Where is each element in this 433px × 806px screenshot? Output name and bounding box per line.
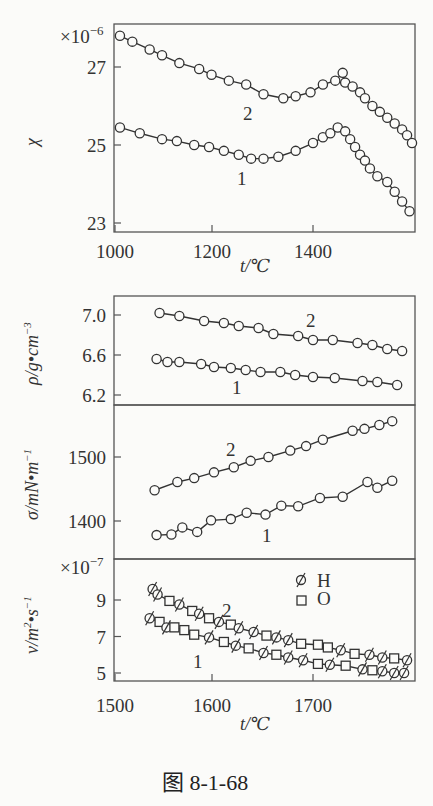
y-tick-label: 23 — [87, 213, 106, 234]
nu-axis-ticks: 579150016001700 — [96, 590, 332, 716]
data-point-circle — [274, 152, 283, 161]
data-point-circle — [308, 138, 317, 147]
data-point-circle — [175, 59, 184, 68]
legend-slashed-circle-icon — [297, 573, 306, 587]
nu-curve-label-2: 2 — [222, 600, 232, 621]
data-point-circle — [206, 516, 215, 525]
figure-caption: 图 8-1-68 — [162, 770, 248, 795]
chi-curve-label-1: 1 — [237, 168, 247, 189]
data-point-square — [262, 631, 271, 640]
nu-y-label: ν/m2•s−1 — [21, 596, 42, 654]
legend-square-icon — [297, 596, 306, 605]
nu-series — [145, 582, 412, 680]
data-point-circle — [242, 80, 251, 89]
data-point-square — [390, 654, 399, 663]
rho-axis-ticks: 6.26.67.0 — [82, 305, 121, 406]
data-point-circle — [360, 424, 369, 433]
data-point-circle — [241, 365, 250, 374]
data-point-circle — [363, 477, 372, 486]
data-point-square — [297, 639, 306, 648]
data-point-circle — [247, 154, 256, 163]
data-point-circle — [398, 197, 407, 206]
data-point-circle — [291, 370, 300, 379]
data-point-circle — [135, 129, 144, 138]
data-point-circle — [368, 340, 377, 349]
sigma-curve-label-1: 1 — [262, 525, 272, 546]
data-point-circle — [234, 150, 243, 159]
y-tick-label: 7 — [97, 627, 107, 648]
data-point-circle — [373, 483, 382, 492]
data-point-circle — [178, 523, 187, 532]
chi-series — [115, 31, 416, 216]
data-point-circle — [259, 154, 268, 163]
data-point-circle — [172, 137, 181, 146]
data-point-square — [313, 640, 322, 649]
x-tick-label: 1200 — [193, 241, 231, 262]
data-point-circle — [157, 135, 166, 144]
data-point-circle — [291, 92, 300, 101]
data-point-circle — [269, 329, 278, 338]
data-point-circle — [175, 311, 184, 320]
data-point-square — [205, 614, 214, 623]
data-point-circle — [308, 335, 317, 344]
data-point-circle — [226, 514, 235, 523]
data-point-circle — [152, 354, 161, 363]
x-tick-label: 1700 — [294, 695, 332, 716]
data-point-circle — [301, 442, 310, 451]
data-point-circle — [318, 435, 327, 444]
top-x-axis-label: t/℃ — [240, 256, 270, 276]
data-point-square — [165, 596, 174, 605]
data-point-square — [341, 661, 350, 670]
nu-legend: H O — [297, 570, 332, 609]
chi-y-label: χ — [22, 137, 42, 148]
data-point-circle — [219, 146, 228, 155]
data-point-circle — [388, 417, 397, 426]
data-point-circle — [197, 359, 206, 368]
data-point-circle — [348, 426, 357, 435]
figure: 232527100012001400 ×10−6 χ t/℃ 2 1 6.26.… — [0, 0, 433, 806]
data-point-circle — [276, 367, 285, 376]
data-point-circle — [353, 338, 362, 347]
data-point-circle — [224, 76, 233, 85]
data-point-circle — [115, 31, 124, 40]
data-point-circle — [318, 80, 327, 89]
data-point-circle — [167, 530, 176, 539]
sigma-y-label: σ/mN•m−1 — [21, 449, 42, 520]
data-point-circle — [246, 456, 255, 465]
data-point-circle — [207, 70, 216, 79]
data-point-circle — [234, 321, 243, 330]
y-tick-label: 1500 — [68, 447, 106, 468]
data-point-circle — [256, 367, 265, 376]
x-tick-label: 1600 — [193, 695, 231, 716]
chi-multiplier: ×10−6 — [60, 23, 104, 47]
y-tick-label: 6.6 — [82, 345, 106, 366]
data-point-square — [313, 659, 322, 668]
data-point-circle — [383, 177, 392, 186]
data-point-circle — [286, 446, 295, 455]
data-point-circle — [190, 140, 199, 149]
data-point-circle — [375, 420, 384, 429]
data-point-circle — [390, 187, 399, 196]
data-point-circle — [200, 316, 209, 325]
legend-label-o: O — [317, 588, 331, 609]
data-point-square — [244, 644, 253, 653]
data-point-square — [170, 623, 179, 632]
data-point-circle — [145, 45, 154, 54]
bottom-x-axis-label: t/℃ — [240, 714, 270, 734]
y-tick-label: 25 — [87, 135, 106, 156]
y-tick-label: 1400 — [68, 511, 106, 532]
data-point-circle — [155, 308, 164, 317]
x-tick-label: 1500 — [96, 695, 134, 716]
data-point-circle — [150, 486, 159, 495]
data-point-circle — [315, 493, 324, 502]
data-point-circle — [190, 474, 199, 483]
data-point-circle — [383, 344, 392, 353]
data-point-circle — [360, 94, 369, 103]
data-point-circle — [204, 142, 213, 151]
data-point-circle — [388, 476, 397, 485]
x-tick-label: 1000 — [96, 241, 134, 262]
data-point-circle — [242, 508, 251, 517]
data-point-circle — [338, 492, 347, 501]
data-point-circle — [261, 510, 270, 519]
chi-curve-label-2: 2 — [243, 103, 253, 124]
